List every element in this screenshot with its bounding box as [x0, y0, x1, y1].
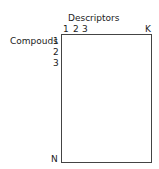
- row-label-1: 1: [53, 36, 59, 46]
- column-axis-title: Descriptors: [68, 13, 119, 23]
- column-label-k: K: [145, 24, 151, 34]
- row-label-n: N: [51, 154, 58, 164]
- column-label-1: 1: [63, 24, 69, 34]
- row-label-2: 2: [53, 47, 59, 57]
- row-label-3: 3: [53, 58, 59, 68]
- column-label-2: 2: [73, 24, 79, 34]
- matrix-box: [61, 34, 152, 163]
- row-axis-title: Compouds: [10, 36, 58, 46]
- column-label-3: 3: [82, 24, 88, 34]
